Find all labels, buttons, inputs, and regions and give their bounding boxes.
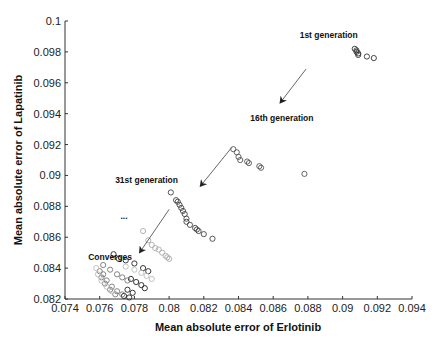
data-point [140,228,145,233]
data-point [130,290,135,295]
data-point [134,279,139,284]
data-point [97,269,102,274]
data-point [238,157,243,162]
data-point [180,208,185,213]
data-point [139,270,144,275]
data-point [104,278,109,283]
annotation-label: 16th generation [250,113,313,123]
x-axis-title: Mean absolute error of Erlotinib [155,321,322,333]
data-point [364,54,369,59]
axes: 0.0740.0760.0780.080.0820.0840.0860.0880… [33,15,425,314]
annotations: 1st generation16th generation31st genera… [88,30,358,262]
x-tick-label: 0.078 [121,302,149,314]
annotation-arrows [140,69,307,253]
y-tick-label: 0.098 [33,46,61,58]
arrow [280,69,306,103]
data-point [132,261,137,266]
series [97,262,130,297]
annotation-label: 1st generation [300,30,358,40]
y-tick-label: 0.086 [33,231,61,243]
annotation-label: Converges [88,252,132,262]
y-tick-label: 0.092 [33,139,61,151]
data-point [125,287,130,292]
x-tick-label: 0.076 [86,302,114,314]
data-point [144,273,149,278]
y-tick-label: 0.094 [33,108,61,120]
data-point [302,171,307,176]
data-point [210,236,215,241]
data-point [114,272,119,277]
data-point [95,272,100,277]
x-tick-label: 0.09 [332,302,353,314]
series [231,147,307,177]
y-axis-title: Mean absolute error of Lapatinib [12,74,24,245]
data-point [101,262,106,267]
y-tick-label: 0.084 [33,262,61,274]
data-point [123,264,128,269]
series [168,190,215,242]
scatter-chart: 0.0740.0760.0780.080.0820.0840.0860.0880… [0,0,435,344]
x-tick-label: 0.088 [294,302,322,314]
data-point [120,275,125,280]
data-point [114,289,119,294]
y-tick-label: 0.088 [33,200,61,212]
data-points [94,46,377,300]
data-point [108,267,113,272]
data-point [168,190,173,195]
data-point [149,242,154,247]
data-point [371,55,376,60]
annotation-label: 31st generation [115,175,178,185]
data-point [187,222,192,227]
data-point [132,267,137,272]
data-point [104,284,109,289]
data-point [160,250,165,255]
x-tick-label: 0.082 [190,302,218,314]
arrow [200,148,231,187]
data-point [177,202,182,207]
data-point [236,154,241,159]
series [352,46,376,60]
data-point [149,276,154,281]
y-tick-label: 0.09 [40,169,61,181]
data-point [142,286,147,291]
x-tick-label: 0.092 [364,302,392,314]
annotation-label: ... [120,211,127,221]
data-point [184,219,189,224]
data-point [113,292,118,297]
y-tick-label: 0.082 [33,293,61,305]
y-tick-label: 0.1 [46,15,61,27]
data-point [102,281,107,286]
x-tick-label: 0.086 [259,302,287,314]
y-tick-label: 0.096 [33,77,61,89]
data-point [101,272,106,277]
data-point [179,205,184,210]
data-point [139,283,144,288]
data-point [94,266,99,271]
data-point [201,232,206,237]
x-tick-label: 0.094 [398,302,426,314]
x-tick-label: 0.08 [158,302,179,314]
data-point [231,147,236,152]
data-point [99,278,104,283]
x-tick-label: 0.084 [225,302,253,314]
